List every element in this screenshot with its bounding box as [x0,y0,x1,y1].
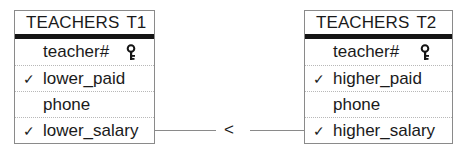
field-label: phone [43,92,90,118]
field-row-lower-paid[interactable]: ✓ lower_paid [15,65,154,91]
checkmark-icon[interactable]: ✓ [312,118,326,144]
field-row-teacher-id[interactable]: teacher# [15,39,154,65]
key-icon [419,44,431,61]
field-row-higher-salary[interactable]: ✓ higher_salary [305,117,452,143]
key-icon [125,44,137,61]
field-label: lower_salary [43,118,138,144]
join-operator[interactable]: < [224,120,234,140]
field-label: higher_paid [333,66,422,92]
field-label: phone [333,92,380,118]
field-label: lower_paid [43,66,125,92]
field-row-phone[interactable]: phone [15,91,154,117]
entity-teachers-t1[interactable]: TEACHERST1 teacher# ✓ lower_paid phone ✓… [14,10,155,144]
field-label: teacher# [333,39,399,65]
field-row-phone[interactable]: phone [305,91,452,117]
checkmark-icon[interactable]: ✓ [22,66,36,92]
field-row-higher-paid[interactable]: ✓ higher_paid [305,65,452,91]
entity-alias: T1 [126,13,146,32]
checkmark-icon[interactable]: ✓ [22,118,36,144]
entity-name: TEACHERS [316,13,409,32]
entity-header[interactable]: TEACHERST1 [15,11,154,34]
entity-alias: T2 [416,13,436,32]
entity-name: TEACHERS [26,13,119,32]
field-row-teacher-id[interactable]: teacher# [305,39,452,65]
field-label: higher_salary [333,118,435,144]
entity-teachers-t2[interactable]: TEACHERST2 teacher# ✓ higher_paid phone … [304,10,453,144]
join-line-right[interactable] [250,130,304,131]
entity-header[interactable]: TEACHERST2 [305,11,452,34]
field-label: teacher# [43,39,109,65]
checkmark-icon[interactable]: ✓ [312,66,326,92]
join-line-left[interactable] [155,130,216,131]
field-row-lower-salary[interactable]: ✓ lower_salary [15,117,154,143]
